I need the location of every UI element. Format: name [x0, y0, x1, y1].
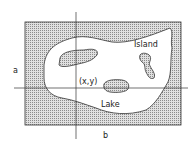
- lake-label: Lake: [101, 100, 120, 109]
- axis-b-label: b: [103, 131, 108, 140]
- island-center: [104, 80, 129, 93]
- lake-island-diagram: Island (x,y) Lake a b: [0, 0, 195, 149]
- island-label: Island: [134, 40, 158, 49]
- axis-a-label: a: [13, 66, 18, 75]
- point-label: (x,y): [79, 77, 97, 86]
